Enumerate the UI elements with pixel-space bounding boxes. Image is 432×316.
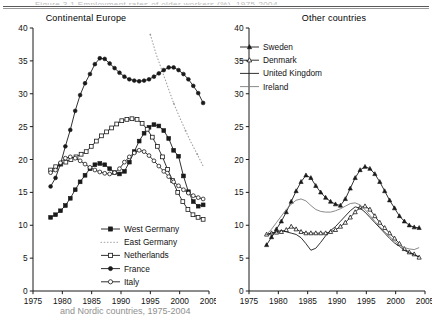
data-point-marker [54,176,58,180]
data-point-marker [191,194,195,198]
legend-item-west-germany[interactable]: West Germany [101,224,180,234]
dotted-marker [185,130,187,132]
data-point-marker [152,159,156,163]
series-united-kingdom [267,207,420,257]
data-point-marker [150,135,154,139]
y-tick-label: 20 [18,155,28,165]
legend[interactable]: SwedenDenmarkUnited KingdomIreland [240,42,322,92]
y-tick-label: 10 [234,220,244,230]
legend-item-netherlands[interactable]: Netherlands [101,250,169,260]
series-denmark [265,204,422,259]
data-point-marker [309,231,313,235]
data-point-marker [181,200,185,204]
data-point-marker [123,160,127,164]
data-point-marker [89,144,93,148]
data-point-marker [145,127,149,131]
data-point-marker [152,123,156,127]
data-point-marker [78,180,82,184]
data-point-marker [147,77,151,81]
data-point-marker [49,215,53,219]
data-point-marker [63,144,67,148]
data-point-marker [201,217,205,221]
data-point-marker [108,167,112,171]
data-point-marker [196,196,200,200]
y-tick-label: 30 [234,89,244,99]
data-point-marker [132,151,136,155]
series-west-germany [49,123,205,220]
legend-item-italy[interactable]: Italy [101,277,140,287]
data-point-marker [108,227,112,231]
data-point-marker [152,75,156,79]
data-point-marker [93,62,97,66]
data-point-marker [113,171,117,175]
series-sweden [265,164,422,246]
data-point-marker [186,191,190,195]
data-point-marker [73,109,77,113]
data-point-marker [191,213,195,217]
data-point-marker [59,161,63,165]
data-point-marker [93,163,97,167]
legend-item-sweden[interactable]: Sweden [240,42,293,52]
dotted-marker [150,34,152,36]
data-point-marker [73,188,77,192]
y-tick-label: 0 [239,286,244,296]
data-point-marker [172,180,176,184]
legend[interactable]: West GermanyEast GermanyNetherlandsFranc… [101,224,180,287]
data-point-marker [135,117,139,121]
data-point-marker [157,164,161,168]
y-tick-label: 25 [234,122,244,132]
x-tick-label: 1990 [112,296,131,306]
data-point-marker [191,200,195,204]
data-point-marker [130,117,134,121]
data-point-marker [191,84,195,88]
figure-container: Figure 3.1 Employment rates of older wor… [0,0,432,316]
data-point-marker [167,66,171,70]
data-point-marker [120,119,124,123]
data-point-marker [166,167,170,171]
data-point-marker [155,144,159,148]
data-point-marker [108,267,112,271]
data-point-marker [289,224,293,228]
data-point-marker [83,81,87,85]
data-point-marker [388,198,392,202]
data-point-marker [137,139,141,143]
x-tick-label: 2005 [416,296,432,306]
legend-item-united-kingdom[interactable]: United Kingdom [240,68,322,78]
data-point-marker [162,68,166,72]
data-point-marker [161,155,165,159]
y-tick-label: 0 [23,286,28,296]
data-point-marker [172,66,176,70]
data-point-marker [363,164,367,168]
data-point-marker [64,160,68,164]
data-point-marker [348,186,352,190]
data-point-marker [83,162,87,166]
data-point-marker [68,128,72,132]
data-point-marker [127,155,131,159]
data-point-marker [54,168,58,172]
legend-item-east-germany[interactable]: East Germany [101,237,178,247]
data-point-marker [363,204,367,208]
legend-label: France [124,264,150,274]
data-point-marker [78,93,82,97]
chart-left: 0510152025303540197519801985199019952000… [0,0,216,306]
x-tick-label: 1990 [328,296,347,306]
data-point-marker [123,75,127,79]
data-point-marker [172,148,176,152]
data-point-marker [196,91,200,95]
legend-item-france[interactable]: France [101,264,150,274]
data-point-marker [147,154,151,158]
data-point-marker [142,131,146,135]
data-point-marker [108,62,112,66]
data-point-marker [299,230,303,234]
data-point-marker [103,171,107,175]
legend-label: West Germany [124,224,180,234]
y-tick-label: 25 [18,122,28,132]
data-point-marker [103,163,107,167]
data-point-marker [182,174,186,178]
data-point-marker [314,231,318,235]
data-point-marker [294,227,298,231]
data-point-marker [383,189,387,193]
data-point-marker [279,219,283,223]
legend-item-ireland[interactable]: Ireland [240,82,289,92]
data-point-marker [108,172,112,176]
